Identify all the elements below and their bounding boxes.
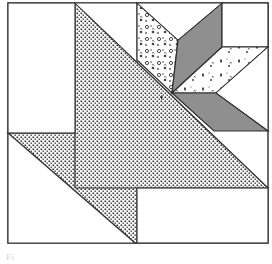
white-rect-bottom-right: [137, 188, 268, 243]
white-rect-top-left: [8, 3, 75, 133]
figure-caption: Fi: [6, 252, 15, 262]
white-square-top-right: [222, 3, 268, 47]
quilt-block-diagram: [0, 0, 272, 250]
